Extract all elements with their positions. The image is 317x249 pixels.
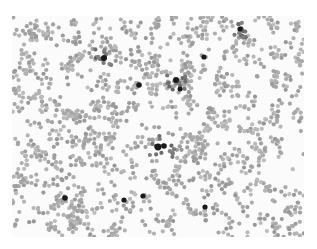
particle bbox=[263, 217, 267, 221]
particle bbox=[140, 123, 144, 127]
particle bbox=[155, 83, 159, 87]
particle bbox=[62, 38, 66, 42]
dark-cluster-particle bbox=[241, 35, 245, 39]
particle bbox=[121, 110, 125, 114]
particle bbox=[129, 147, 133, 151]
particle bbox=[212, 211, 216, 215]
particle bbox=[137, 62, 141, 66]
particle bbox=[172, 232, 176, 236]
particle bbox=[222, 54, 226, 58]
particle bbox=[73, 35, 77, 39]
dark-cluster-particle bbox=[165, 73, 169, 77]
particle bbox=[55, 43, 59, 47]
particle bbox=[15, 74, 19, 78]
particle bbox=[206, 143, 210, 147]
particle bbox=[215, 208, 219, 212]
particle bbox=[280, 101, 284, 105]
particle bbox=[207, 176, 211, 180]
particle bbox=[136, 50, 140, 54]
particle bbox=[174, 111, 178, 115]
particle bbox=[144, 62, 148, 66]
particle bbox=[109, 180, 113, 184]
particle bbox=[205, 37, 209, 41]
particle bbox=[241, 154, 245, 158]
particle bbox=[89, 88, 93, 92]
particle bbox=[188, 210, 192, 214]
particle bbox=[70, 22, 74, 26]
particle bbox=[190, 73, 194, 77]
particle bbox=[133, 175, 137, 179]
particle bbox=[18, 66, 22, 70]
particle bbox=[258, 137, 262, 141]
particle bbox=[165, 220, 169, 224]
particle bbox=[144, 36, 148, 40]
particle bbox=[152, 125, 156, 129]
particle bbox=[216, 141, 220, 145]
particle bbox=[139, 208, 143, 212]
particle bbox=[106, 73, 110, 77]
particle bbox=[228, 118, 232, 122]
particle bbox=[41, 30, 45, 34]
particle bbox=[106, 142, 110, 146]
particle bbox=[224, 182, 228, 186]
particle bbox=[263, 189, 267, 193]
particle bbox=[164, 224, 168, 228]
particle bbox=[220, 211, 224, 215]
particle bbox=[242, 165, 246, 169]
particle bbox=[186, 99, 190, 103]
particle bbox=[238, 201, 242, 205]
particle bbox=[25, 119, 29, 123]
particle bbox=[238, 150, 242, 154]
particle bbox=[14, 91, 18, 95]
particle bbox=[206, 193, 210, 197]
particle bbox=[234, 106, 238, 110]
particle bbox=[69, 204, 73, 208]
particle bbox=[147, 138, 151, 142]
dark-cluster-particle bbox=[167, 81, 171, 85]
particle bbox=[155, 25, 159, 29]
particle bbox=[272, 56, 276, 60]
particle bbox=[108, 27, 112, 31]
particle bbox=[213, 82, 217, 86]
particle bbox=[29, 154, 33, 158]
particle bbox=[253, 60, 257, 64]
particle bbox=[149, 32, 153, 36]
particle bbox=[194, 31, 198, 35]
particle bbox=[131, 205, 135, 209]
particle bbox=[88, 137, 92, 141]
particle bbox=[302, 152, 305, 156]
particle bbox=[147, 52, 151, 56]
particle bbox=[283, 53, 287, 57]
particle bbox=[119, 17, 123, 21]
particle bbox=[216, 124, 220, 128]
particle bbox=[260, 151, 264, 155]
particle bbox=[203, 218, 207, 222]
particle bbox=[90, 228, 94, 232]
particle bbox=[300, 42, 304, 46]
particle bbox=[166, 131, 170, 135]
particle bbox=[271, 69, 275, 73]
particle bbox=[73, 220, 77, 224]
particle bbox=[298, 85, 302, 89]
particle bbox=[71, 140, 75, 144]
particle bbox=[167, 177, 171, 181]
particle bbox=[66, 82, 70, 86]
particle bbox=[274, 85, 278, 89]
particle bbox=[99, 148, 103, 152]
particle bbox=[221, 230, 225, 234]
particle bbox=[290, 224, 294, 228]
particle bbox=[294, 222, 298, 226]
particle bbox=[24, 154, 28, 158]
particle bbox=[129, 20, 133, 24]
particle bbox=[183, 62, 187, 66]
particle bbox=[215, 74, 219, 78]
particle bbox=[252, 104, 256, 108]
particle bbox=[289, 46, 293, 50]
particle bbox=[41, 191, 45, 195]
particle bbox=[45, 222, 49, 226]
particle bbox=[286, 74, 290, 78]
particle bbox=[62, 116, 66, 120]
particle bbox=[187, 112, 191, 116]
particle bbox=[69, 222, 73, 226]
particle bbox=[92, 137, 96, 141]
